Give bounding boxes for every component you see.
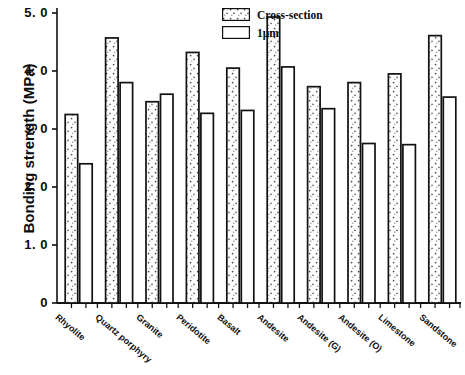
bar-cross-section bbox=[388, 74, 401, 303]
bar-cross-section bbox=[65, 115, 78, 304]
y-tick-label: 4. 0 bbox=[4, 63, 48, 78]
legend-item: 1μm bbox=[222, 25, 323, 40]
bar-cross-section bbox=[308, 87, 321, 303]
bar-cross-section bbox=[186, 52, 199, 303]
bar-1um bbox=[201, 113, 214, 303]
legend-item: Cross-section bbox=[222, 7, 323, 22]
bar-1um bbox=[403, 145, 416, 303]
bar-cross-section bbox=[429, 36, 442, 303]
y-tick-label: 5. 0 bbox=[4, 5, 48, 20]
bar-chart: Bonding strength (MPa) 01. 02. 03. 04. 0… bbox=[0, 0, 465, 375]
bar-cross-section bbox=[146, 102, 159, 303]
y-tick-label: 3. 0 bbox=[4, 121, 48, 136]
y-tick-label: 0 bbox=[4, 295, 48, 310]
bar-cross-section bbox=[106, 38, 119, 303]
legend-label-1um: 1μm bbox=[257, 27, 279, 39]
bar-1um bbox=[120, 83, 133, 303]
legend: Cross-section 1μm bbox=[222, 7, 323, 40]
bar-1um bbox=[80, 164, 93, 303]
bar-1um bbox=[241, 110, 254, 303]
bar-cross-section bbox=[348, 83, 361, 303]
plot-area bbox=[0, 0, 465, 375]
stippled-swatch bbox=[222, 8, 250, 21]
bar-1um bbox=[322, 109, 335, 303]
bar-cross-section bbox=[227, 68, 240, 303]
bar-1um bbox=[282, 67, 295, 303]
legend-label-cross-section: Cross-section bbox=[257, 9, 323, 21]
bar-1um bbox=[161, 94, 174, 303]
bars-layer bbox=[65, 17, 456, 303]
y-tick-label: 2. 0 bbox=[4, 179, 48, 194]
bar-1um bbox=[363, 144, 376, 304]
bar-1um bbox=[443, 97, 456, 303]
bar-cross-section bbox=[267, 17, 280, 303]
white-swatch bbox=[222, 26, 250, 39]
y-tick-label: 1. 0 bbox=[4, 237, 48, 252]
